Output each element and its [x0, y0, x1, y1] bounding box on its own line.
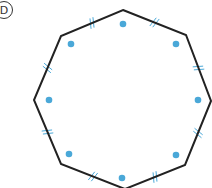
dot-marker	[66, 151, 73, 158]
octagon-outline	[34, 10, 211, 188]
dot-marker	[119, 175, 126, 182]
dot-marker	[173, 152, 180, 159]
dot-marker	[120, 21, 127, 28]
vertex-dots	[46, 21, 202, 182]
octagon-diagram	[0, 0, 212, 188]
dot-marker	[173, 41, 180, 48]
dot-marker	[68, 41, 75, 48]
dot-marker	[46, 97, 53, 104]
equal-side-tick-marks	[42, 17, 205, 183]
dot-marker	[195, 97, 202, 104]
